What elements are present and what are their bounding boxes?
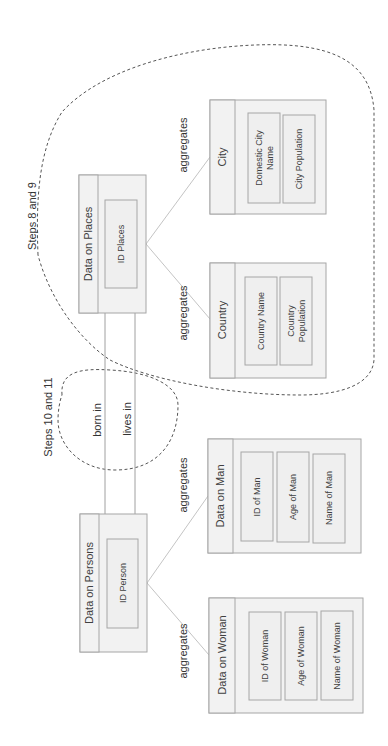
aggregation-label-country: aggregates	[177, 285, 189, 341]
attribute-label-domestic-city-name-line1: Domestic City	[254, 130, 264, 186]
relation-label-lives-in: lives in	[121, 402, 133, 436]
aggregation-label-woman: aggregates	[177, 623, 189, 679]
attribute-label-name-of-woman: Name of Woman	[332, 622, 342, 689]
entity-data-on-persons[interactable]: Data on Persons ID Person	[80, 514, 147, 652]
entity-title-city: City	[216, 147, 228, 166]
entity-data-on-woman[interactable]: Data on Woman ID of Woman Age of Woman N…	[209, 598, 363, 713]
entity-title-places: Data on Places	[82, 206, 94, 281]
aggregation-label-city: aggregates	[177, 117, 189, 173]
entity-title-persons: Data on Persons	[83, 542, 95, 624]
entity-city[interactable]: City Domestic City Name City Population	[210, 100, 326, 214]
aggregation-label-man: aggregates	[177, 457, 189, 513]
entity-data-on-man[interactable]: Data on Man ID of Man Age of Man Name of…	[208, 439, 361, 553]
entity-title-man: Data on Man	[214, 465, 226, 528]
entity-data-on-places[interactable]: Data on Places ID Places	[79, 175, 146, 313]
entity-title-country: Country	[216, 300, 228, 339]
attribute-label-country-population-line1: Country	[286, 305, 296, 337]
entity-title-woman: Data on Woman	[216, 615, 228, 694]
attribute-label-city-population: City Population	[294, 129, 304, 190]
attribute-label-name-of-man: Name of Man	[324, 471, 334, 525]
attribute-label-id-person: ID Person	[118, 563, 128, 603]
attribute-label-country-name: Country Name	[256, 292, 266, 350]
attribute-label-age-of-man: Age of Man	[288, 474, 298, 520]
group-label-steps-10-11: Steps 10 and 11	[42, 377, 54, 456]
relation-label-born-in: born in	[91, 403, 103, 437]
attribute-label-country-population-line2: Population	[297, 300, 307, 343]
entity-country[interactable]: Country Country Name Country Population	[210, 263, 326, 378]
attribute-label-id-of-man: ID of Man	[252, 477, 262, 516]
attribute-label-id-of-woman: ID of Woman	[260, 630, 270, 682]
attribute-label-id-places: ID Places	[116, 224, 126, 263]
group-loop-steps-10-11	[58, 370, 178, 470]
attribute-country-population[interactable]	[280, 277, 312, 365]
attribute-label-domestic-city-name-line2: Name	[265, 146, 275, 170]
erd-diagram: Data on Places ID Places City Domestic C…	[0, 0, 388, 746]
attribute-label-age-of-woman: Age of Woman	[296, 626, 306, 685]
attribute-domestic-city-name[interactable]	[248, 113, 280, 203]
group-label-steps-8-9: Steps 8 and 9	[26, 182, 38, 250]
